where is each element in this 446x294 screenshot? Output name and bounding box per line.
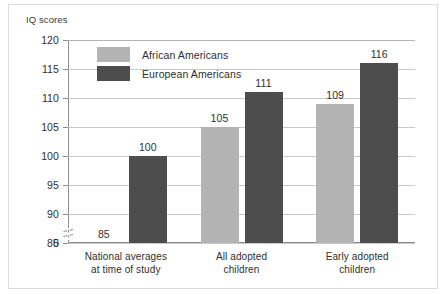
bar-value-label: 100 xyxy=(139,141,157,153)
y-axis-tick-mark xyxy=(63,214,68,215)
legend-color-swatch xyxy=(97,47,130,62)
y-axis-tick-label: 105 xyxy=(41,121,59,133)
chart-figure: IQ scores 8590951001051101151200 8510010… xyxy=(0,0,446,294)
figure-border-left xyxy=(8,4,9,289)
legend-label: European Americans xyxy=(142,68,241,80)
y-axis-tick-mark xyxy=(63,185,68,186)
y-axis-tick-label: 95 xyxy=(47,179,59,191)
y-axis-tick-mark xyxy=(63,69,68,70)
x-axis-category-line: National averages xyxy=(85,250,167,263)
x-axis-category-line: children xyxy=(216,263,267,276)
bar-value-label: 116 xyxy=(371,48,388,60)
bar-value-label: 105 xyxy=(211,112,229,124)
x-axis-category-line: Early adopted xyxy=(326,250,389,263)
x-axis-category-line: children xyxy=(326,263,389,276)
chart-legend: African AmericansEuropean Americans xyxy=(97,46,241,84)
y-axis-tick-label: 100 xyxy=(41,150,59,162)
gridline xyxy=(68,40,415,41)
gridline xyxy=(68,243,415,244)
x-axis-category-line: at time of study xyxy=(85,263,167,276)
legend-item: European Americans xyxy=(97,65,241,82)
y-axis-tick-mark xyxy=(63,127,68,128)
bar-value-label: 111 xyxy=(255,77,271,89)
bar: 100 xyxy=(129,156,167,243)
bar: 111 xyxy=(245,92,283,243)
bar: 105 xyxy=(201,127,239,243)
y-axis-tick-label: 110 xyxy=(42,92,59,104)
y-axis-zero-tick-mark xyxy=(63,243,68,244)
y-axis-title: IQ scores xyxy=(26,14,68,25)
y-axis-tick-mark xyxy=(63,98,68,99)
y-axis-tick-mark xyxy=(63,156,68,157)
y-axis-tick-label: 115 xyxy=(42,63,59,75)
y-axis-zero-label: 0 xyxy=(53,237,59,249)
bar: 116 xyxy=(360,63,398,243)
figure-border-top xyxy=(8,4,438,5)
legend-item: African Americans xyxy=(97,46,241,63)
bar-value-label: 109 xyxy=(326,89,344,101)
bar: 109 xyxy=(316,104,354,243)
y-axis-tick-mark xyxy=(63,40,68,41)
figure-border-bottom xyxy=(8,288,438,289)
x-axis-category-line: All adopted xyxy=(216,250,267,263)
legend-color-swatch xyxy=(97,66,130,81)
plot-area: 8590951001051101151200 85100105111109116… xyxy=(68,40,415,243)
x-axis-category-label: National averagesat time of study xyxy=(85,250,167,276)
bar-value-label: 85 xyxy=(98,228,110,240)
y-axis-tick-label: 120 xyxy=(41,34,59,46)
x-axis-category-label: All adoptedchildren xyxy=(216,250,267,276)
x-axis-category-label: Early adoptedchildren xyxy=(326,250,389,276)
y-axis-tick-label: 90 xyxy=(47,208,59,220)
figure-border-right xyxy=(437,4,438,289)
legend-label: African Americans xyxy=(142,49,228,61)
